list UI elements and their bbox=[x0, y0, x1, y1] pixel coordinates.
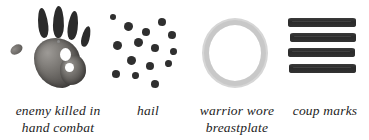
hail-dot bbox=[132, 72, 139, 79]
hail-dot bbox=[113, 41, 122, 50]
coup-mark-stroke bbox=[289, 64, 356, 73]
hail-dot bbox=[134, 38, 143, 47]
hail-dot bbox=[112, 70, 120, 78]
coup-mark-stroke bbox=[288, 18, 356, 27]
hand-finger-1 bbox=[36, 8, 49, 39]
hail-dot bbox=[158, 18, 166, 26]
coup-mark-stroke bbox=[290, 33, 356, 42]
hail-dot bbox=[168, 31, 176, 39]
coup-marks-symbol bbox=[280, 0, 369, 98]
hail-dot bbox=[165, 60, 172, 67]
hail-dot bbox=[151, 80, 159, 88]
hail-dot bbox=[146, 62, 154, 70]
ring-inner-shade bbox=[204, 20, 266, 86]
ring-breastplate-symbol bbox=[190, 0, 280, 98]
hail-dot bbox=[110, 14, 116, 20]
caption-hail: hail bbox=[110, 102, 186, 119]
hail-dot bbox=[142, 28, 150, 36]
hand-finger-4 bbox=[80, 25, 93, 47]
hail-dot bbox=[170, 48, 177, 55]
pictograph-figure: enemy killed in hand combat hail warrior… bbox=[0, 0, 369, 140]
caption-ring: warrior wore breastplate bbox=[188, 102, 286, 136]
hail-dot bbox=[124, 22, 133, 31]
hand-thumb-mark bbox=[9, 42, 25, 57]
hail-dot bbox=[151, 44, 159, 52]
hand-palm-notch-right bbox=[65, 63, 74, 72]
caption-handprint: enemy killed in hand combat bbox=[2, 102, 114, 136]
hand-palm-notch-upper bbox=[60, 48, 71, 61]
hail-dot bbox=[127, 56, 136, 65]
hail-dots-symbol bbox=[104, 0, 190, 98]
handprint-symbol bbox=[8, 0, 104, 98]
hand-finger-2 bbox=[53, 6, 65, 38]
hand-finger-3 bbox=[66, 10, 79, 40]
hand-ink-speck bbox=[57, 40, 60, 43]
coup-mark-stroke bbox=[288, 48, 355, 57]
caption-coup-marks: coup marks bbox=[282, 102, 368, 119]
